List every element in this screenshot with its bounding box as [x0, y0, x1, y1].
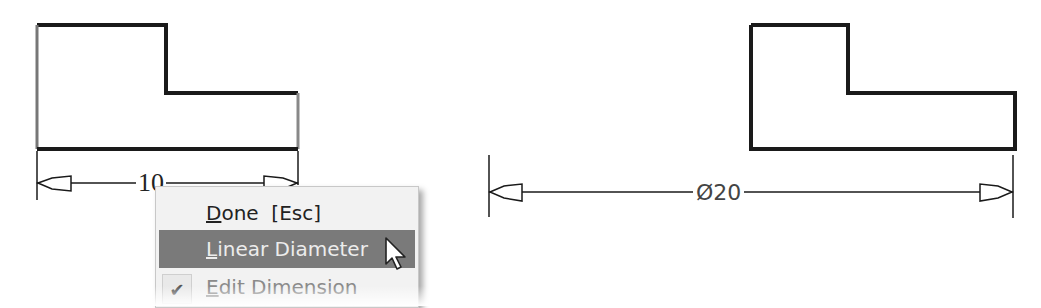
menu-item-done[interactable]: Done [Esc]: [156, 194, 418, 232]
right-dimension-value[interactable]: Ø20: [693, 182, 744, 204]
right-dimension: [489, 155, 1013, 218]
right-profile-sketch: [751, 25, 1015, 149]
mnemonic: L: [206, 237, 217, 261]
menu-fade: [150, 286, 430, 306]
menu-item-label: one [Esc]: [221, 201, 321, 225]
mnemonic: D: [206, 201, 221, 225]
menu-item-label: inear Diameter: [217, 237, 368, 261]
left-profile-sketch: [37, 25, 298, 149]
mouse-pointer-icon: [384, 236, 410, 272]
menu-item-linear-diameter[interactable]: Linear Diameter: [159, 230, 415, 268]
